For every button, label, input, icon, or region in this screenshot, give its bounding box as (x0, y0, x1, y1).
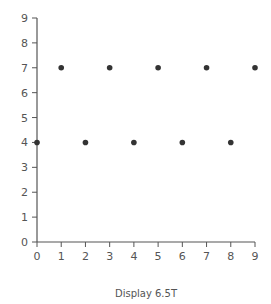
data-points (34, 65, 258, 145)
x-tick-label: 0 (34, 250, 41, 263)
data-point (155, 65, 161, 71)
x-tick-label: 9 (252, 250, 259, 263)
x-tick-label: 7 (203, 250, 210, 263)
x-tick-label: 5 (155, 250, 162, 263)
y-tick-label: 0 (21, 236, 28, 249)
data-point (252, 65, 258, 71)
y-tick-label: 6 (21, 87, 28, 100)
scatter-chart: 01234567890123456789 Display 6.5T (0, 0, 271, 304)
x-axis-label: Display 6.5T (115, 288, 178, 299)
y-tick-label: 1 (21, 211, 28, 224)
data-point (34, 140, 40, 146)
x-tick-label: 3 (106, 250, 113, 263)
data-point (131, 140, 137, 146)
x-tick-label: 8 (227, 250, 234, 263)
y-tick-label: 5 (21, 112, 28, 125)
x-tick-label: 1 (58, 250, 65, 263)
data-point (83, 140, 89, 146)
y-tick-label: 7 (21, 62, 28, 75)
y-tick-label: 4 (21, 136, 28, 149)
x-tick-label: 2 (82, 250, 89, 263)
y-tick-label: 8 (21, 37, 28, 50)
data-point (228, 140, 234, 146)
y-tick-label: 2 (21, 186, 28, 199)
data-point (58, 65, 64, 71)
axes: 01234567890123456789 (21, 12, 259, 263)
x-tick-label: 6 (179, 250, 186, 263)
y-tick-label: 3 (21, 161, 28, 174)
data-point (180, 140, 186, 146)
data-point (107, 65, 113, 71)
data-point (204, 65, 210, 71)
x-tick-label: 4 (130, 250, 137, 263)
y-tick-label: 9 (21, 12, 28, 25)
